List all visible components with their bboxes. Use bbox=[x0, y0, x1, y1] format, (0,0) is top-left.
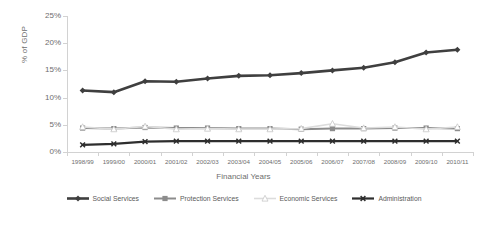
chart-legend: Social ServicesProtection ServicesEconom… bbox=[0, 194, 487, 203]
chart-container: % of GDP 0%5%10%15%20%25% 1998/991999/00… bbox=[0, 0, 487, 226]
triangle-marker-icon bbox=[253, 194, 277, 203]
legend-item-economic-services[interactable]: Economic Services bbox=[253, 194, 338, 203]
cross-marker-icon bbox=[351, 194, 375, 203]
series-social-services bbox=[80, 47, 461, 95]
diamond-marker-icon bbox=[66, 194, 90, 203]
legend-item-administration[interactable]: Administration bbox=[351, 194, 421, 203]
series-economic-services bbox=[80, 121, 461, 132]
x-axis-title: Financial Years bbox=[0, 172, 487, 181]
legend-item-social-services[interactable]: Social Services bbox=[66, 194, 139, 203]
legend-item-protection-services[interactable]: Protection Services bbox=[153, 194, 239, 203]
legend-label: Economic Services bbox=[280, 195, 338, 202]
legend-label: Social Services bbox=[93, 195, 139, 202]
legend-label: Administration bbox=[378, 195, 421, 202]
square-marker-icon bbox=[153, 194, 177, 203]
series-administration bbox=[80, 139, 460, 148]
legend-label: Protection Services bbox=[180, 195, 239, 202]
series-plot-area bbox=[0, 0, 487, 226]
